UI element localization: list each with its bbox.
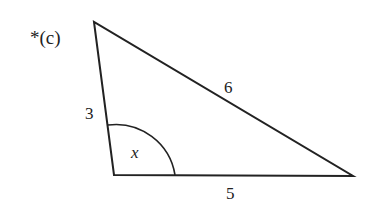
angle-label: x — [130, 143, 139, 162]
side-label-top: 6 — [224, 78, 233, 97]
problem-label: *(c) — [30, 27, 61, 49]
angle-arc — [108, 124, 175, 175]
side-label-bottom: 5 — [226, 184, 235, 203]
triangle-diagram: *(c) 3 6 5 x — [0, 0, 366, 210]
side-label-left: 3 — [85, 104, 94, 123]
